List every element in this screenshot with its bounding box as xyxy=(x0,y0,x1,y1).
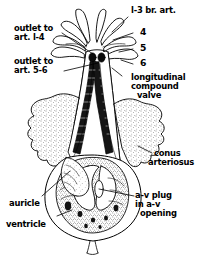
artery-branch-right-3 xyxy=(105,49,138,60)
valve-ostium-left xyxy=(89,53,96,62)
artery-branch-left-1 xyxy=(51,47,84,58)
label-auricle: auricle xyxy=(9,199,40,208)
label-outlet-5-6-line2: art. 5-6 xyxy=(14,66,47,75)
label-av-plug-line3: opening xyxy=(140,209,177,218)
label-outlet-1-4-line2: art. l-4 xyxy=(14,33,44,42)
label-conus-line2: arteriosus xyxy=(148,158,194,167)
label-valve-line3: valve xyxy=(137,91,161,100)
ventricle-chamber xyxy=(45,155,141,255)
leader-6 xyxy=(121,60,133,64)
leader-valve xyxy=(112,68,122,76)
label-number-5: 5 xyxy=(140,43,146,53)
label-ventricle: ventricle xyxy=(6,220,46,229)
label-number-6: 6 xyxy=(140,58,146,68)
label-number-4: 4 xyxy=(140,27,146,37)
ventricle-apex xyxy=(87,241,90,253)
valve-ostium-right xyxy=(98,53,105,62)
ventricle-apex-2 xyxy=(95,241,98,253)
ventricle-apex-tip xyxy=(87,253,98,255)
label-br-art: l-3 br. art. xyxy=(131,6,176,15)
